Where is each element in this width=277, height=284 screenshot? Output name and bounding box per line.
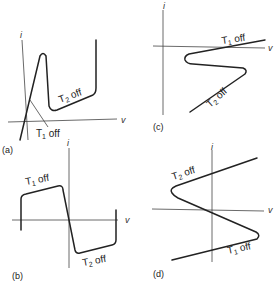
t1-off-label: T1 off (24, 172, 50, 188)
t1-off-line (30, 100, 48, 127)
t2-off-label: T2 off (204, 85, 230, 110)
t1-off-label: T1 off (226, 240, 252, 257)
v-axis-label: v (121, 115, 126, 125)
characteristic-curve (21, 186, 116, 253)
panel-c: i v T1 off T2 off (c) (153, 1, 273, 132)
panel-d: i v T2 off T1 off (d) (152, 142, 273, 279)
t1-off-label: T1 off (36, 128, 60, 140)
panel-label-a: (a) (2, 145, 13, 155)
iv-characteristics-figure: i v T2 off T1 off (a) i v T1 off T2 off … (0, 0, 277, 284)
i-axis-label: i (67, 138, 70, 148)
v-axis-label: v (125, 215, 130, 225)
panel-label-b: (b) (12, 271, 23, 281)
panel-a: i v T2 off T1 off (a) (2, 30, 126, 155)
characteristic-curve (185, 40, 265, 112)
v-axis (153, 46, 265, 48)
v-axis-label: v (268, 43, 273, 53)
t2-off-label: T2 off (57, 86, 84, 105)
v-axis-label: v (268, 205, 273, 215)
characteristic-curve (20, 40, 96, 140)
i-axis-label: i (163, 1, 166, 11)
i-axis-label: i (211, 142, 214, 152)
panel-label-d: (d) (153, 269, 164, 279)
i-axis-label: i (20, 30, 23, 40)
panel-label-c: (c) (153, 122, 164, 132)
t2-off-label: T2 off (81, 253, 107, 269)
panel-b: i v T1 off T2 off (b) (12, 138, 130, 281)
